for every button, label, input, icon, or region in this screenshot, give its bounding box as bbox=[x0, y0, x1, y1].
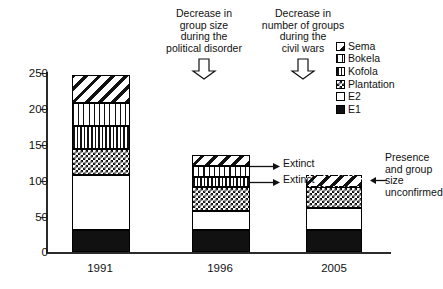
legend-label-plantation: Plantation bbox=[348, 79, 395, 90]
segment-2005-e1 bbox=[306, 230, 362, 252]
segment-2005-e2 bbox=[306, 208, 362, 230]
segment-1991-plantation bbox=[73, 149, 129, 175]
annotation-line: Decrease in bbox=[248, 8, 358, 20]
y-tick-label-200: 200 bbox=[14, 104, 48, 114]
legend-item-bokela: Bokela bbox=[336, 53, 432, 66]
annotation-civil-wars: Decrease in number of groups during the … bbox=[248, 8, 358, 54]
annotation-line: Decrease in bbox=[150, 8, 258, 20]
bar-1996 bbox=[192, 155, 250, 252]
annotation-line: political disorder bbox=[150, 43, 258, 55]
bar-2005 bbox=[306, 175, 362, 252]
x-tick-label-1991: 1991 bbox=[60, 262, 140, 274]
segment-1991-e1 bbox=[73, 230, 129, 252]
annotation-line: civil wars bbox=[248, 43, 358, 55]
segment-1996-bokela bbox=[193, 166, 249, 177]
legend-item-e2: E2 bbox=[336, 90, 432, 103]
down-arrow-icon-2 bbox=[290, 58, 316, 80]
segment-1991-e2 bbox=[73, 175, 129, 230]
legend-swatch-e1-icon bbox=[336, 105, 345, 114]
legend-swatch-plantation-icon bbox=[336, 80, 345, 89]
x-tick-label-1996: 1996 bbox=[180, 262, 260, 274]
legend-label-e1: E1 bbox=[348, 104, 361, 115]
segment-2005-plantation bbox=[306, 187, 362, 208]
segment-1996-sema bbox=[193, 155, 249, 166]
annotation-line: Presence bbox=[385, 152, 437, 164]
legend-swatch-bokela-icon bbox=[336, 54, 345, 63]
extinct-label-2: Extinct bbox=[283, 174, 315, 185]
y-tick-label-250: 250 bbox=[14, 68, 48, 78]
legend-item-plantation: Plantation bbox=[336, 78, 432, 91]
legend-label-e2: E2 bbox=[348, 91, 361, 102]
annotation-political-disorder: Decrease in group size during the politi… bbox=[150, 8, 258, 54]
annotation-line: unconfirmed bbox=[385, 187, 437, 199]
legend-label-kofola: Kofola bbox=[348, 66, 378, 77]
legend-label-bokela: Bokela bbox=[348, 53, 380, 64]
segment-1996-kofola bbox=[193, 177, 249, 187]
segment-1991-bokela bbox=[73, 103, 129, 126]
x-tick-label-2005: 2005 bbox=[294, 262, 374, 274]
extinct-label-1: Extinct bbox=[283, 158, 315, 169]
legend-item-kofola: Kofola bbox=[336, 65, 432, 78]
y-tick-label-0: 0 bbox=[14, 247, 48, 257]
segment-1991-sema bbox=[73, 75, 129, 103]
segment-1996-e1 bbox=[193, 230, 249, 252]
segment-1996-e2 bbox=[193, 211, 249, 230]
y-axis-ticks: 250 200 150 100 50 0 bbox=[0, 0, 48, 289]
legend-item-e1: E1 bbox=[336, 103, 432, 116]
y-tick-label-100: 100 bbox=[14, 176, 48, 186]
y-tick-label-50: 50 bbox=[14, 212, 48, 222]
legend-swatch-e2-icon bbox=[336, 92, 345, 101]
legend-swatch-kofola-icon bbox=[336, 67, 345, 76]
bar-1991 bbox=[72, 75, 130, 252]
extinct-arrow-icon-2 bbox=[250, 178, 280, 187]
down-arrow-icon-1 bbox=[191, 58, 217, 80]
extinct-arrow-icon-1 bbox=[250, 162, 280, 171]
x-axis-line bbox=[46, 252, 391, 254]
segment-1996-plantation bbox=[193, 187, 249, 211]
segment-1991-kofola bbox=[73, 126, 129, 149]
annotation-unconfirmed: Presence and group size unconfirmed bbox=[385, 152, 437, 198]
y-tick-label-150: 150 bbox=[14, 140, 48, 150]
